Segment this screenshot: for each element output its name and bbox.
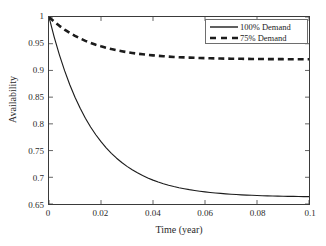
plot-svg xyxy=(49,17,309,204)
y-tick-label: 0.9 xyxy=(33,66,44,75)
x-tick-label: 0.06 xyxy=(197,209,213,218)
legend-line-sample-solid xyxy=(209,22,239,32)
availability-vs-time-chart: 10.950.90.850.80.750.70.65 Availability … xyxy=(0,0,326,246)
plot-area xyxy=(48,16,310,205)
y-tick-label: 0.8 xyxy=(33,120,44,129)
legend-item[interactable]: 100% Demand xyxy=(209,22,304,32)
y-tick-label: 1 xyxy=(40,12,45,21)
y-tick-label: 0.95 xyxy=(28,39,44,48)
axis-tick-marks xyxy=(49,17,309,204)
legend-line-sample-dashed xyxy=(209,33,239,43)
x-tick-label: 0.08 xyxy=(250,209,266,218)
y-tick-label: 0.75 xyxy=(28,147,44,156)
chart-legend: 100% Demand75% Demand xyxy=(205,19,308,44)
legend-label: 100% Demand xyxy=(239,22,291,32)
y-tick-label: 0.85 xyxy=(28,93,44,102)
x-axis-tick-labels: 00.020.040.060.080.1 xyxy=(0,209,326,223)
x-tick-label: 0.04 xyxy=(145,209,161,218)
x-axis-title: Time (year) xyxy=(48,224,310,235)
y-tick-label: 0.7 xyxy=(33,174,44,183)
x-tick-label: 0.02 xyxy=(93,209,109,218)
y-axis-title: Availability xyxy=(7,50,18,150)
legend-label: 75% Demand xyxy=(239,33,287,43)
x-tick-label: 0.1 xyxy=(304,209,315,218)
x-tick-label: 0 xyxy=(46,209,51,218)
legend-item[interactable]: 75% Demand xyxy=(209,33,304,43)
